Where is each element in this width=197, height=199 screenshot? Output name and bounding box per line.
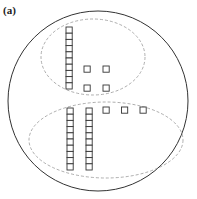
ten-rod-unit	[67, 151, 73, 157]
ten-rod-unit	[67, 127, 73, 133]
ten-rod-unit	[86, 133, 92, 139]
single-unit	[122, 107, 128, 113]
ten-rod-unit	[67, 158, 73, 164]
ten-rod-unit	[67, 145, 73, 151]
ten-rod-unit	[67, 120, 73, 126]
ten-rod-unit	[86, 120, 92, 126]
ten-rod-unit	[86, 145, 92, 151]
single-unit	[84, 66, 90, 72]
single-unit	[103, 66, 109, 72]
upper-group	[66, 27, 109, 91]
ten-rod-unit	[67, 133, 73, 139]
lower-group	[67, 107, 146, 170]
ten-rod-unit	[66, 27, 72, 33]
single-unit	[103, 107, 109, 113]
single-unit	[84, 85, 90, 91]
ten-rod-unit	[66, 39, 72, 45]
ten-rod-unit	[86, 139, 92, 145]
ten-rod-unit	[67, 108, 73, 114]
ten-rod-unit	[86, 158, 92, 164]
ten-rod-unit	[66, 70, 72, 76]
single-unit	[140, 107, 146, 113]
ten-rod-unit	[86, 127, 92, 133]
ten-rod-unit	[67, 164, 73, 170]
ten-rod-unit	[66, 33, 72, 39]
ten-rod-unit	[86, 164, 92, 170]
outer-circle	[8, 11, 188, 191]
ten-rod-unit	[66, 64, 72, 70]
upper-group-ellipse	[41, 19, 145, 95]
ten-rod-unit	[86, 114, 92, 120]
ten-rod-unit	[66, 77, 72, 83]
ten-rod-unit	[66, 52, 72, 58]
ten-rod-unit	[86, 108, 92, 114]
ten-rod-unit	[66, 46, 72, 52]
base-ten-diagram	[0, 0, 197, 199]
ten-rod-unit	[66, 83, 72, 89]
ten-rod-unit	[86, 151, 92, 157]
single-unit	[103, 85, 109, 91]
ten-rod-unit	[67, 139, 73, 145]
ten-rod-unit	[67, 114, 73, 120]
ten-rod-unit	[66, 58, 72, 64]
